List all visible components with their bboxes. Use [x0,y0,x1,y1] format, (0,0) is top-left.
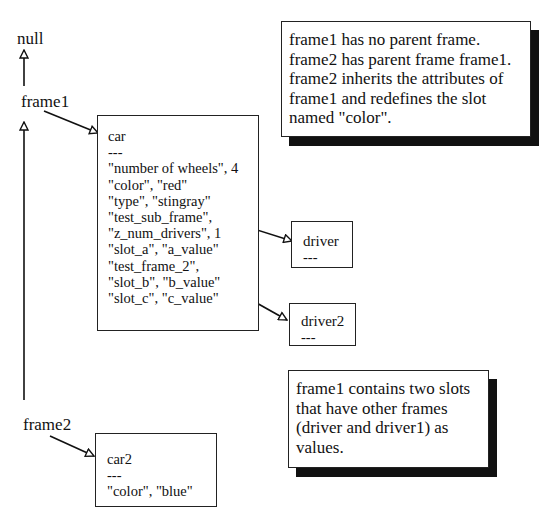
car-slot: "slot_b", "b_value" [108,274,258,290]
car-slot: "type", "stingray" [108,193,258,209]
car-frame-separator: --- [108,144,258,160]
callout-line: frame1 contains two slots [296,379,488,399]
car-slot: "test_sub_frame", [108,209,258,225]
callout-line: frame2 inherits the attributes of [289,69,530,89]
car-slot: "test_frame_2", [108,258,258,274]
driver2-frame-separator: --- [301,329,355,345]
driver-frame-box: driver --- [291,221,353,268]
null-label: null [17,30,43,48]
callout-line: (driver and driver1) as [296,418,488,438]
car2-frame-box: car2 --- "color", "blue" [95,433,217,507]
callout-line: that have other frames [296,399,488,419]
frame1-to-car-arrow [44,111,98,133]
frame2-to-car2-arrow [50,436,94,456]
driver2-frame-title: driver2 [301,313,355,329]
car-frame-title: car [108,128,258,144]
car-slot: "number of wheels", 4 [108,160,258,176]
callout-line: frame1 and redefines the slot [289,89,530,109]
car-slot: "slot_a", "a_value" [108,241,258,257]
driver-frame-separator: --- [303,249,352,265]
callout-line: frame2 has parent frame frame1. [289,50,530,70]
car-slot: "slot_c", "c_value" [108,290,258,306]
car-slot: "z_num_drivers", 1 [108,225,258,241]
frame1-label: frame1 [21,93,69,111]
car-slot: "color", "red" [108,177,258,193]
car2-frame-title: car2 [107,451,216,467]
driver2-frame-box: driver2 --- [289,303,356,346]
car-frame-box: car --- "number of wheels", 4 "color", "… [97,115,259,331]
callout-line: frame1 has no parent frame. [289,30,530,50]
callout-line: values. [296,438,488,458]
car2-slot: "color", "blue" [107,483,216,499]
car2-frame-separator: --- [107,467,216,483]
inheritance-callout: frame1 has no parent frame. frame2 has p… [281,21,531,137]
driver-frame-title: driver [303,233,352,249]
callout-line: named "color". [289,108,530,128]
subframes-callout: frame1 contains two slots that have othe… [288,370,489,468]
frame2-label: frame2 [23,416,71,434]
